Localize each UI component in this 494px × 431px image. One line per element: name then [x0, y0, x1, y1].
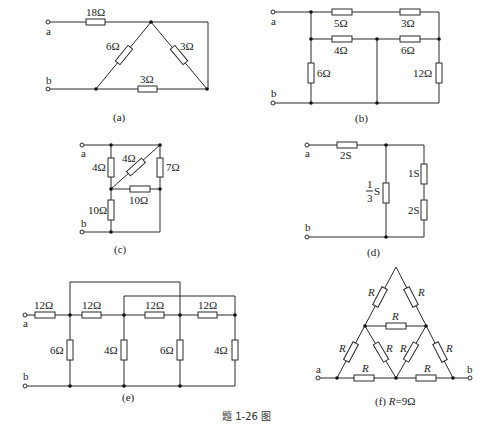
resistor-r-bottom-right — [416, 375, 436, 381]
subfigure-label-c: (c) — [114, 243, 127, 256]
subfigure-label-f: (f) R=9Ω — [375, 395, 415, 408]
resistor-6ohm-v — [308, 63, 314, 83]
resistor-r-middle — [386, 323, 406, 329]
resistor-label: 12Ω — [145, 299, 164, 311]
resistor-r-top-left — [373, 287, 388, 307]
resistor-label: R — [399, 342, 407, 354]
circuit-f: a b R R R R R R R R R (f) R=9Ω — [316, 267, 473, 408]
resistor-label: 3Ω — [401, 17, 415, 29]
circuit-e: a b 12Ω 12Ω 12Ω 12Ω 6Ω 4Ω 6Ω 4Ω (e) — [23, 282, 238, 404]
resistor-label: 6Ω — [106, 40, 120, 52]
resistor-label: R — [367, 286, 375, 298]
resistor-4ohm-v — [108, 158, 114, 177]
conductance-one-third-s — [383, 183, 389, 203]
resistor-label: 12Ω — [198, 299, 217, 311]
resistor-12ohm-4 — [198, 312, 217, 318]
resistor-label: 10Ω — [129, 194, 148, 206]
subfigure-label-d: (d) — [367, 246, 380, 259]
terminal-a-label: a — [46, 25, 51, 37]
resistor-label: 12Ω — [413, 67, 432, 79]
resistor-12ohm-2 — [82, 312, 101, 318]
fraction-unit: S — [374, 185, 380, 197]
resistor-3ohm — [400, 9, 420, 15]
fraction-denominator: 3 — [367, 192, 373, 204]
circuit-figure: a b 18Ω 6Ω 3Ω 3Ω (a) a b — [0, 0, 494, 431]
resistor-label: 6Ω — [401, 44, 415, 56]
conductance-2s-shunt — [421, 200, 427, 220]
terminal-a — [316, 376, 320, 380]
terminal-b-label: b — [23, 370, 29, 382]
circuit-d: a b 2S 1S 2S 1 3 S (d) — [305, 142, 427, 259]
subfigure-label-a: (a) — [113, 111, 126, 124]
terminal-b-label: b — [305, 221, 311, 233]
resistor-label: 12Ω — [82, 299, 101, 311]
resistor-label: 4Ω — [92, 161, 106, 173]
resistor-4ohm-2 — [232, 340, 238, 360]
terminal-b-label: b — [46, 74, 52, 86]
conductance-label: 1S — [408, 167, 420, 179]
terminal-a — [46, 20, 50, 24]
resistor-label: 10Ω — [88, 204, 107, 216]
resistor-6ohm-2 — [177, 340, 183, 360]
resistor-label: 4Ω — [334, 44, 348, 56]
terminal-b-label: b — [467, 363, 473, 375]
resistor-label: 4Ω — [214, 344, 228, 356]
resistor-18ohm — [86, 19, 105, 25]
resistor-label: 4Ω — [122, 152, 136, 164]
fraction-numerator: 1 — [367, 178, 373, 190]
conductance-label: 2S — [408, 204, 420, 216]
resistor-5ohm — [332, 9, 352, 15]
resistor-label: 4Ω — [104, 344, 118, 356]
resistor-label: R — [445, 342, 453, 354]
resistor-10ohm-v — [108, 200, 114, 220]
terminal-b — [46, 87, 50, 91]
resistor-label: 12Ω — [34, 299, 53, 311]
conductance-label: 2S — [340, 149, 352, 161]
circuit-c: a b 4Ω 4Ω 7Ω 10Ω 10Ω (c) — [80, 143, 180, 256]
resistor-12ohm — [436, 63, 442, 83]
resistor-label: R — [423, 362, 431, 374]
terminal-b — [468, 376, 472, 380]
resistor-label: 6Ω — [50, 344, 64, 356]
resistor-label: 5Ω — [334, 17, 348, 29]
subfigure-label-b: (b) — [355, 112, 368, 125]
resistor-label: 18Ω — [86, 6, 105, 18]
resistor-10ohm-h — [130, 186, 150, 192]
resistor-label: 6Ω — [160, 344, 174, 356]
terminal-a-label: a — [23, 317, 28, 329]
resistor-r-lower-left-outer — [344, 342, 359, 362]
resistor-label: 3Ω — [180, 40, 194, 52]
resistor-label: R — [361, 362, 369, 374]
resistor-label: 3Ω — [140, 73, 154, 85]
terminal-b — [23, 384, 27, 388]
resistor-r-top-right — [404, 287, 418, 308]
conductance-2s-series — [337, 142, 357, 148]
resistor-label: 6Ω — [317, 67, 331, 79]
resistor-12ohm-3 — [145, 312, 164, 318]
terminal-b — [305, 235, 309, 239]
terminal-b — [271, 101, 275, 105]
resistor-label: R — [391, 310, 399, 322]
resistor-12ohm-1 — [35, 312, 55, 318]
circuit-b: a b 5Ω 3Ω 4Ω 6Ω 6Ω 12Ω (b) — [271, 9, 442, 125]
resistor-4ohm — [332, 36, 352, 42]
resistor-label: R — [385, 342, 393, 354]
terminal-a-label: a — [81, 147, 86, 159]
terminal-a-label: a — [316, 363, 321, 375]
resistor-7ohm — [157, 158, 163, 177]
resistor-label: 7Ω — [166, 161, 180, 173]
subfigure-label-e: (e) — [122, 391, 135, 404]
resistor-6ohm-h — [400, 36, 420, 42]
conductance-1s — [421, 164, 427, 184]
resistor-r-bottom-left — [354, 375, 374, 381]
terminal-b-label: b — [271, 87, 277, 99]
terminal-b-label: b — [81, 217, 87, 229]
resistor-6ohm-1 — [67, 340, 73, 360]
terminal-a-label: a — [271, 15, 276, 27]
circuit-a: a b 18Ω 6Ω 3Ω 3Ω (a) — [46, 6, 209, 124]
figure-caption: 题 1-26 图 — [222, 411, 271, 422]
resistor-label: R — [338, 342, 346, 354]
resistor-3ohm-bottom — [138, 86, 157, 92]
resistor-4ohm-1 — [121, 340, 127, 360]
resistor-label: R — [417, 286, 425, 298]
